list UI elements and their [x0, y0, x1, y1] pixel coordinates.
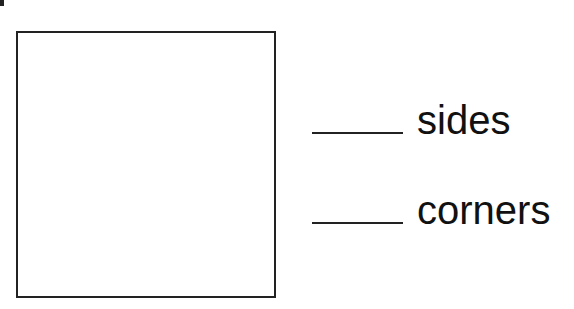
- corners-label: corners: [417, 190, 550, 230]
- square-shape: [16, 31, 276, 298]
- sides-row: sides: [312, 100, 510, 140]
- corner-mark: [0, 0, 4, 6]
- sides-label: sides: [417, 100, 510, 140]
- sides-blank[interactable]: [312, 132, 403, 134]
- corners-blank[interactable]: [312, 222, 403, 224]
- corners-row: corners: [312, 190, 550, 230]
